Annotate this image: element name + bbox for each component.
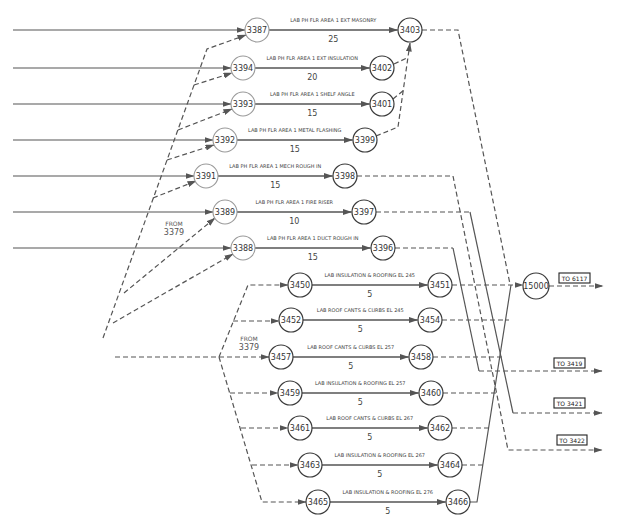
- network-diagram: LAB PH FLR AREA 1 EXT MASONRY25LAB PH FL…: [0, 0, 620, 523]
- event-node-15000: 15000: [523, 273, 549, 299]
- activity-3452-3454: LAB ROOF CANTS & CURBS EL 2455: [303, 305, 418, 334]
- event-node-3401: 3401: [370, 92, 394, 116]
- activity-label: LAB INSULATION & ROOFING EL 276: [342, 487, 433, 496]
- event-number: 3464: [440, 461, 460, 470]
- activity-label: LAB INSULATION & ROOFING EL 257: [315, 378, 406, 387]
- activity-3463-3464: LAB INSULATION & ROOFING EL 2675: [322, 450, 438, 479]
- event-number: 15000: [523, 282, 548, 291]
- event-node-3393: 3393: [231, 92, 255, 116]
- activity-3457-3458: LAB ROOF CANTS & CURBS EL 2575: [293, 342, 409, 371]
- activity-label: LAB PH FLR AREA 1 FIRE RISER: [255, 197, 333, 206]
- activity-duration: 15: [290, 145, 300, 154]
- event-number: 3466: [448, 498, 468, 507]
- activity-duration: 15: [307, 109, 317, 118]
- event-number: 3402: [372, 64, 392, 73]
- activity-label: LAB INSULATION & ROOFING EL 245: [324, 270, 415, 279]
- event-node-3454: 3454: [418, 308, 442, 332]
- activity-label: LAB ROOF CANTS & CURBS EL 267: [326, 413, 413, 422]
- event-number: 3450: [290, 281, 310, 290]
- continuation-box: TO 3421: [554, 398, 585, 408]
- event-number: 3458: [411, 353, 431, 362]
- activity-label: LAB PH FLR AREA 1 EXT MASONRY: [290, 15, 377, 24]
- event-number: 3457: [271, 353, 291, 362]
- event-number: 3388: [233, 244, 253, 253]
- event-number: 3465: [308, 498, 328, 507]
- activity-duration: 5: [367, 433, 372, 442]
- activity-3461-3462: LAB ROOF CANTS & CURBS EL 2675: [312, 413, 428, 442]
- activity-3392-3399: LAB PH FLR AREA 1 METAL FLASHING15: [237, 125, 353, 154]
- activity-3465-3466: LAB INSULATION & ROOFING EL 2765: [330, 487, 446, 516]
- event-node-3403: 3403: [398, 18, 422, 42]
- event-number: 3461: [290, 424, 310, 433]
- event-number: 3451: [430, 281, 450, 290]
- event-node-3458: 3458: [409, 345, 433, 369]
- activity-label: LAB PH FLR AREA 1 DUCT ROUGH IN: [267, 233, 359, 242]
- event-number: 3463: [300, 461, 320, 470]
- continuation-label: TO 3422: [558, 436, 585, 445]
- activity-3388-3396: LAB PH FLR AREA 1 DUCT ROUGH IN15: [255, 233, 371, 262]
- event-node-3397: 3397: [352, 200, 376, 224]
- event-node-3452: 3452: [279, 308, 303, 332]
- event-node-3387: 3387: [245, 18, 269, 42]
- event-number: 3393: [233, 100, 253, 109]
- event-node-3399: 3399: [353, 128, 377, 152]
- activity-duration: 5: [358, 398, 363, 407]
- event-node-3465: 3465: [306, 490, 330, 514]
- event-node-3457: 3457: [269, 345, 293, 369]
- event-node-3388: 3388: [231, 236, 255, 260]
- activity-3391-3398: LAB PH FLR AREA 1 MECH ROUGH IN15: [218, 161, 333, 190]
- event-number: 3394: [233, 64, 253, 73]
- dummy-to-3392: [167, 145, 214, 160]
- from-note: FROM3379: [239, 335, 259, 353]
- activity-duration: 5: [367, 290, 372, 299]
- activity-3459-3460: LAB INSULATION & ROOFING EL 2575: [302, 378, 419, 407]
- event-number: 3398: [335, 172, 355, 181]
- event-number: 3462: [430, 424, 450, 433]
- continuation-label: TO 3421: [556, 399, 583, 408]
- event-node-3464: 3464: [438, 453, 462, 477]
- event-number: 3460: [421, 389, 441, 398]
- activity-duration: 15: [308, 253, 318, 262]
- activity-label: LAB PH FLR AREA 1 MECH ROUGH IN: [229, 161, 321, 170]
- activity-label: LAB PH FLR AREA 1 SHELF ANGLE: [270, 89, 355, 98]
- dummy-to-3388: [113, 254, 233, 323]
- event-node-3459: 3459: [278, 381, 302, 405]
- activity-duration: 5: [358, 325, 363, 334]
- note-prefix: FROM: [240, 335, 258, 342]
- event-node-3389: 3389: [213, 200, 237, 224]
- note-prefix: FROM: [165, 220, 183, 227]
- event-node-3398: 3398: [333, 164, 357, 188]
- activity-label: LAB INSULATION & ROOFING EL 267: [334, 450, 425, 459]
- dummy-to-3391: [153, 181, 196, 198]
- event-number: 3401: [372, 100, 392, 109]
- event-number: 3459: [280, 389, 300, 398]
- activity-duration: 20: [307, 73, 317, 82]
- activity-3393-3401: LAB PH FLR AREA 1 SHELF ANGLE15: [255, 89, 370, 118]
- event-number: 3387: [247, 26, 267, 35]
- event-node-3451: 3451: [428, 273, 452, 297]
- activity-label: LAB PH FLR AREA 1 METAL FLASHING: [248, 125, 342, 134]
- event-node-3460: 3460: [419, 381, 443, 405]
- activity-3450-3451: LAB INSULATION & ROOFING EL 2455: [312, 270, 428, 299]
- link-3396-down: [453, 248, 479, 371]
- event-node-3402: 3402: [370, 56, 394, 80]
- activity-duration: 5: [348, 362, 353, 371]
- event-number: 3403: [400, 26, 420, 35]
- event-node-3461: 3461: [288, 416, 312, 440]
- from-note: FROM3379: [164, 220, 184, 238]
- event-number: 3454: [420, 316, 440, 325]
- activities-layer: LAB PH FLR AREA 1 EXT MASONRY25LAB PH FL…: [218, 15, 446, 516]
- continuation-label: TO 6117: [561, 274, 588, 283]
- event-number: 3399: [355, 136, 375, 145]
- activity-3389-3397: LAB PH FLR AREA 1 FIRE RISER10: [237, 197, 352, 226]
- event-node-3466: 3466: [446, 490, 470, 514]
- event-node-3394: 3394: [231, 56, 255, 80]
- dummy-3403-out: [422, 30, 510, 284]
- dummy-to-3394: [194, 73, 232, 85]
- activity-duration: 25: [328, 35, 338, 44]
- activity-3394-3402: LAB PH FLR AREA 1 EXT INSULATION20: [255, 53, 370, 82]
- activity-duration: 5: [385, 507, 390, 516]
- continuation-boxes-layer: TO 6117TO 3419TO 3421TO 3422: [554, 273, 590, 445]
- dummy-to-3393: [178, 109, 232, 130]
- activity-label: LAB PH FLR AREA 1 EXT INSULATION: [266, 53, 358, 62]
